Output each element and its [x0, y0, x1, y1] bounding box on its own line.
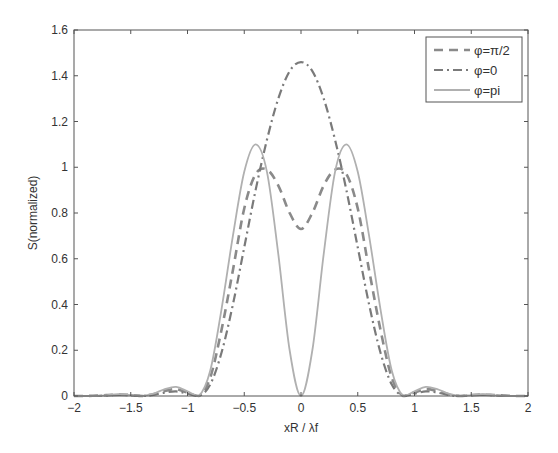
x-tick-label: 1.5 — [463, 401, 480, 415]
x-axis-label: xR / λf — [284, 421, 319, 435]
x-tick-label: 2 — [525, 401, 532, 415]
line-chart: −2−1.5−1−0.500.511.5200.20.40.60.811.21.… — [0, 0, 558, 453]
y-tick-label: 1.4 — [51, 69, 68, 83]
y-tick-label: 1 — [61, 160, 68, 174]
x-tick-label: −2 — [67, 401, 81, 415]
x-tick-label: 0 — [298, 401, 305, 415]
y-axis-label: S(normalized) — [26, 176, 40, 251]
series-solid-line — [74, 144, 528, 396]
y-tick-label: 0.6 — [51, 252, 68, 266]
x-tick-label: −1.5 — [119, 401, 143, 415]
x-tick-label: 1 — [411, 401, 418, 415]
y-tick-label: 0.2 — [51, 343, 68, 357]
x-tick-label: 0.5 — [349, 401, 366, 415]
legend: φ=π/2φ=0φ=pi — [426, 37, 522, 102]
y-tick-label: 0 — [61, 389, 68, 403]
curves — [74, 62, 528, 396]
legend-label: φ=0 — [474, 63, 497, 78]
x-tick-label: −0.5 — [232, 401, 256, 415]
legend-label: φ=pi — [474, 83, 500, 98]
series-dashed-line — [74, 168, 528, 396]
legend-label: φ=π/2 — [474, 43, 510, 58]
y-tick-label: 0.4 — [51, 298, 68, 312]
y-tick-label: 1.2 — [51, 115, 68, 129]
y-tick-label: 1.6 — [51, 23, 68, 37]
x-tick-label: −1 — [181, 401, 195, 415]
y-tick-label: 0.8 — [51, 206, 68, 220]
